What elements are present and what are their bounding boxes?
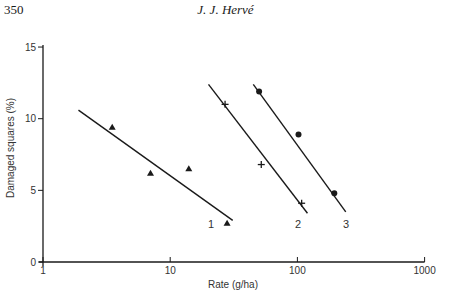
y-tick-label: 5: [30, 185, 36, 196]
fit-line-series-1: [78, 110, 232, 220]
rate-vs-damage-chart: 0510151101001000 123 Rate (g/ha) Damaged…: [0, 0, 451, 294]
y-tick-label: 0: [30, 257, 36, 268]
triangle-marker-icon: [224, 220, 231, 226]
circle-marker-icon: [256, 88, 262, 94]
plus-marker-icon: [298, 200, 305, 207]
series-label-1: 1: [208, 218, 214, 230]
y-axis-title: Damaged squares (%): [5, 98, 16, 198]
fit-lines: [78, 84, 345, 220]
circle-marker-icon: [331, 190, 337, 196]
data-points: [109, 88, 338, 225]
x-tick-label: 100: [289, 265, 306, 276]
axes: 0510151101001000: [25, 42, 436, 276]
triangle-marker-icon: [109, 124, 116, 130]
x-tick-label: 1: [40, 265, 46, 276]
series-label-2: 2: [295, 218, 301, 230]
x-tick-label: 1000: [413, 265, 436, 276]
triangle-marker-icon: [147, 170, 154, 176]
x-axis-title: Rate (g/ha): [208, 279, 258, 290]
x-tick-label: 10: [165, 265, 177, 276]
y-tick-label: 15: [25, 42, 37, 53]
fit-line-series-2: [208, 84, 307, 213]
y-tick-label: 10: [25, 113, 37, 124]
circle-marker-icon: [295, 131, 301, 137]
triangle-marker-icon: [185, 165, 192, 171]
series-label-3: 3: [343, 218, 349, 230]
plus-marker-icon: [258, 161, 265, 168]
